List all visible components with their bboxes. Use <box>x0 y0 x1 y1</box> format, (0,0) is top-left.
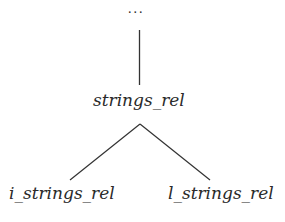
edge-root-to-right-child <box>140 124 210 180</box>
root-node-label: strings_rel <box>93 92 185 109</box>
left-child-node-label: i_strings_rel <box>9 185 115 202</box>
right-child-node-label: l_strings_rel <box>168 185 274 202</box>
ellipsis-node: ... <box>128 2 145 16</box>
edge-root-to-left-child <box>70 124 140 180</box>
